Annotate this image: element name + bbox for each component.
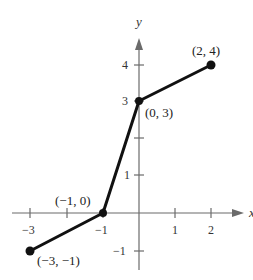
point-marker [99, 209, 107, 217]
x-tick-label: 1 [172, 223, 178, 237]
y-axis: y 4 3 1 −1 [113, 14, 144, 270]
y-axis-arrow-icon [135, 38, 143, 50]
point-marker [207, 61, 216, 70]
y-tick-label: 4 [122, 58, 128, 72]
y-tick-label: 3 [122, 94, 128, 108]
x-tick-label: −1 [95, 223, 108, 237]
point-marker [26, 247, 35, 256]
y-axis-label: y [134, 14, 142, 29]
x-axis: x −3 −1 1 2 [12, 205, 253, 237]
x-axis-label: x [248, 205, 253, 220]
point-label: (−3, −1) [37, 253, 80, 268]
x-tick-label: −3 [22, 223, 35, 237]
y-tick-label: 1 [124, 168, 130, 182]
point-label: (−1, 0) [55, 193, 91, 208]
point-label: (0, 3) [145, 105, 173, 120]
piecewise-graph: x −3 −1 1 2 y 4 3 1 −1 (− [0, 0, 253, 280]
x-axis-arrow-icon [232, 209, 244, 217]
point-label: (2, 4) [192, 43, 220, 58]
graph-line [30, 65, 211, 251]
point-marker [135, 97, 143, 105]
y-tick-label: −1 [113, 244, 126, 258]
x-tick-label: 2 [208, 223, 214, 237]
